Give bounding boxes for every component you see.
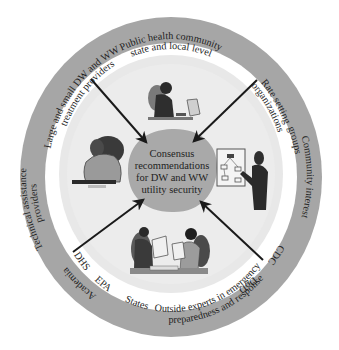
center-line-1: Consensus xyxy=(150,148,195,159)
center-line-2: recommendations xyxy=(135,160,210,171)
center-node: Consensus recommendations for DW and WW … xyxy=(128,129,217,212)
center-line-4: utility security xyxy=(142,184,204,195)
center-line-3: for DW and WW xyxy=(136,172,208,183)
stakeholder-diagram: Consensus recommendations for DW and WW … xyxy=(0,0,339,350)
